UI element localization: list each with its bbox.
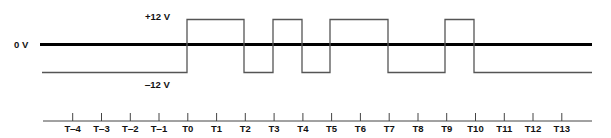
tick-label: T6 [355, 123, 366, 134]
high-voltage-label: +12 V [145, 11, 171, 22]
tick-label: T4 [297, 123, 309, 134]
tick-label: T5 [326, 123, 338, 134]
diagram-canvas: +12 V 0 V ‒12 V T‒4T‒3T‒2T‒1T0T1T2T3T4T5… [0, 0, 611, 138]
tick-label: T10 [467, 123, 483, 134]
tick-label: T2 [240, 123, 251, 134]
tick-label: T3 [269, 123, 280, 134]
low-voltage-label: ‒12 V [144, 79, 170, 90]
zero-voltage-label: 0 V [14, 39, 29, 50]
tick-label: T‒3 [93, 123, 109, 134]
tick-label: T‒1 [151, 123, 168, 134]
tick-label: T11 [496, 123, 513, 134]
tick-label: T13 [554, 123, 570, 134]
tick-label: T‒2 [122, 123, 138, 134]
tick-label: T8 [412, 123, 423, 134]
tick-label: T0 [182, 123, 193, 134]
tick-label: T7 [384, 123, 395, 134]
voltage-timing-diagram: +12 V 0 V ‒12 V T‒4T‒3T‒2T‒1T0T1T2T3T4T5… [0, 0, 611, 138]
time-axis-ticks: T‒4T‒3T‒2T‒1T0T1T2T3T4T5T6T7T8T9T10T11T1… [65, 113, 570, 134]
tick-label: T12 [525, 123, 541, 134]
tick-label: T1 [211, 123, 223, 134]
tick-label: T9 [441, 123, 452, 134]
tick-label: T‒4 [65, 123, 82, 134]
